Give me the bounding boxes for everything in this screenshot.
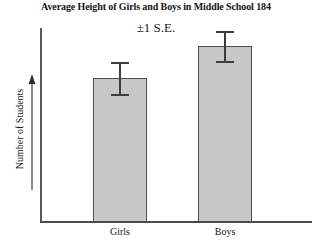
y-axis-label: Number of Students (14, 69, 26, 189)
error-bar-cap-bottom (216, 61, 234, 63)
error-bar-stem (224, 31, 226, 63)
bar-girls (93, 78, 147, 222)
bar-boys (198, 46, 252, 222)
up-arrow-icon (27, 74, 37, 190)
bar-chart-figure: Average Height of Girls and Boys in Midd… (0, 0, 312, 242)
error-bar-cap-top (111, 62, 129, 64)
y-axis-label-group: Number of Students (2, 68, 38, 198)
chart-subtitle-error-note: ±1 S.E. (40, 20, 272, 35)
error-bar-boys (216, 31, 234, 63)
error-bar-stem (119, 62, 121, 96)
error-bar-girls (111, 62, 129, 96)
error-bar-cap-top (216, 31, 234, 33)
x-tick-label-boys: Boys (185, 226, 265, 238)
y-axis-line (40, 28, 42, 223)
x-tick-label-girls: Girls (80, 226, 160, 238)
x-axis-baseline (40, 221, 312, 223)
error-bar-cap-bottom (111, 94, 129, 96)
chart-title: Average Height of Girls and Boys in Midd… (0, 1, 312, 13)
